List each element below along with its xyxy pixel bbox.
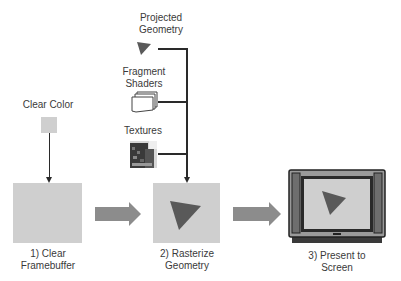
fragment-shaders-label: Fragment Shaders	[114, 66, 174, 90]
clear-color-swatch	[41, 117, 57, 133]
clear-color-line	[49, 133, 51, 177]
step-1-label: 1) Clear Framebuffer	[8, 248, 88, 272]
textures-label: Textures	[118, 125, 168, 137]
inputs-vertical-line	[186, 48, 188, 178]
step-2-label-line2: Geometry	[146, 260, 228, 272]
flow-arrow-2-icon	[233, 202, 281, 226]
flow-arrow-1-icon	[95, 202, 141, 226]
fragment-shaders-stack-icon	[128, 90, 160, 114]
clear-color-label: Clear Color	[13, 99, 83, 111]
step-3-label-line1: 3) Present to	[296, 250, 378, 262]
step-2-label: 2) Rasterize Geometry	[146, 248, 228, 272]
projected-geometry-label-line2: Geometry	[126, 24, 196, 36]
step-1-label-line2: Framebuffer	[8, 260, 88, 272]
projected-geometry-triangle-icon	[136, 40, 152, 56]
cleared-framebuffer-box	[13, 183, 82, 243]
rasterized-triangle-icon	[168, 198, 204, 232]
projected-geometry-label: Projected Geometry	[126, 12, 196, 36]
television-screen-icon	[288, 169, 386, 247]
shaders-connector-line	[158, 101, 187, 103]
geometry-connector-line	[158, 48, 187, 50]
step-1-label-line1: 1) Clear	[8, 248, 88, 260]
step-3-label-line2: Screen	[296, 262, 378, 274]
fragment-shaders-label-line1: Fragment	[114, 66, 174, 78]
step-3-label: 3) Present to Screen	[296, 250, 378, 274]
texture-image-icon	[130, 141, 157, 168]
fragment-shaders-label-line2: Shaders	[114, 78, 174, 90]
projected-geometry-label-line1: Projected	[126, 12, 196, 24]
textures-connector-line	[158, 153, 187, 155]
step-2-label-line1: 2) Rasterize	[146, 248, 228, 260]
